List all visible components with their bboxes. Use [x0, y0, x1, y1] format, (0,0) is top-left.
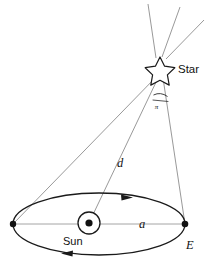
distance-line-star-to-sun: [89, 78, 158, 223]
starlight-rays-group: [148, 4, 204, 59]
sun-circle-dot-icon: [78, 212, 100, 234]
starlight-ray-3: [166, 20, 204, 59]
earth-label: E: [185, 238, 194, 252]
starlight-ray-2: [162, 7, 180, 57]
arrow-right-icon: [61, 251, 73, 257]
semi-major-axis-label: a: [139, 217, 145, 231]
sight-line-star-to-earth: [163, 78, 185, 224]
earth-dot-icon: [182, 221, 189, 228]
sun-label: Sun: [63, 235, 83, 247]
parallax-diagram-canvas: Star Sun E d a π: [0, 0, 211, 273]
orbit-left-vertex-dot-icon: [10, 221, 16, 227]
sight-line-star-to-orbit-left: [13, 76, 157, 224]
star-outline-icon: [145, 57, 175, 85]
distance-label: d: [117, 156, 124, 170]
starlight-ray-1: [148, 4, 156, 58]
parallax-diagram: Star Sun E d a π: [0, 0, 211, 273]
parallax-angle-label: π: [155, 103, 159, 111]
star-label: Star: [178, 63, 199, 75]
